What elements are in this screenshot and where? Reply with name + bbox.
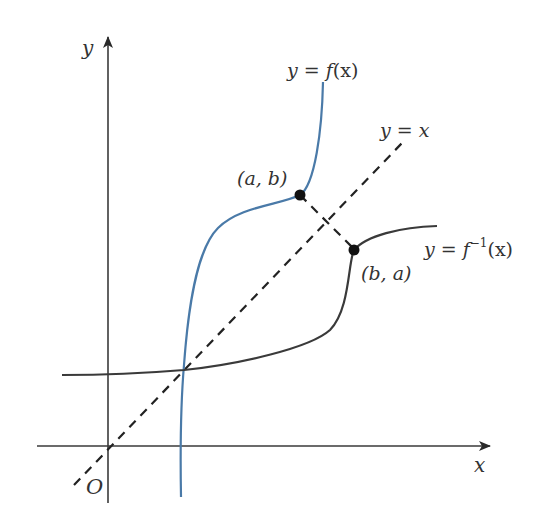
point-b-a-label: (b, a) bbox=[361, 262, 411, 284]
origin-label: O bbox=[86, 475, 103, 499]
identity-line-label: y = x bbox=[379, 119, 430, 141]
f-inverse-curve bbox=[62, 226, 437, 375]
f-curve-label: y = f(x) bbox=[286, 59, 358, 81]
f-inverse-curve-label: y = f−1(x) bbox=[423, 236, 513, 260]
identity-line bbox=[74, 143, 402, 485]
inverse-function-diagram: y x O y = f(x) y = x y = f−1(x) (a, b) (… bbox=[0, 0, 548, 525]
y-axis-label: y bbox=[81, 36, 94, 60]
x-axis-label: x bbox=[474, 453, 485, 477]
f-curve bbox=[181, 82, 323, 497]
point-b-a bbox=[349, 245, 360, 256]
point-a-b bbox=[295, 190, 306, 201]
point-a-b-label: (a, b) bbox=[237, 167, 287, 189]
